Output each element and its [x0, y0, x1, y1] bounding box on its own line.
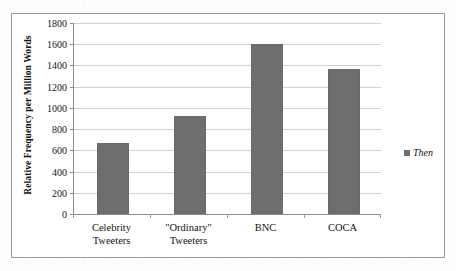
x-tick-mark: [73, 214, 74, 218]
legend-label-then: Then: [413, 147, 433, 158]
legend: Then: [404, 147, 433, 158]
y-tick-label: 1600: [47, 39, 67, 50]
y-tick-label: 800: [52, 124, 67, 135]
y-tick-mark: [70, 193, 74, 194]
bar[interactable]: [328, 69, 360, 214]
chart-frame: Relative Frequency per Million Words 180…: [11, 13, 445, 258]
gridline: [74, 44, 381, 45]
x-tick-mark: [380, 214, 381, 218]
x-tick-label-line: Tweeters: [143, 235, 235, 248]
y-tick-label: 200: [52, 187, 67, 198]
y-tick-label: 1200: [47, 81, 67, 92]
y-tick-mark: [70, 108, 74, 109]
y-tick-mark: [70, 65, 74, 66]
y-tick-mark: [70, 129, 74, 130]
category-axis: CelebrityTweeters"Ordinary"TweetersBNCCO…: [73, 214, 381, 260]
y-tick-label: 0: [62, 209, 67, 220]
plot-area: 180016001400120010008006004002000: [73, 23, 381, 214]
y-tick-label: 400: [52, 166, 67, 177]
y-tick-mark: [70, 23, 74, 24]
bar[interactable]: [174, 116, 206, 214]
y-tick-label: 1800: [47, 18, 67, 29]
y-tick-label: 1000: [47, 102, 67, 113]
y-tick-mark: [70, 172, 74, 173]
plot-inner: 180016001400120010008006004002000: [73, 23, 381, 214]
gridline: [74, 65, 381, 66]
y-tick-label: 600: [52, 145, 67, 156]
x-tick-mark: [304, 214, 305, 218]
gridline: [74, 23, 381, 24]
scanned-page: Relative Frequency per Million Words 180…: [0, 0, 456, 271]
x-tick-mark: [150, 214, 151, 218]
y-tick-mark: [70, 150, 74, 151]
y-tick-mark: [70, 87, 74, 88]
bar[interactable]: [251, 44, 283, 214]
legend-swatch-then: [404, 150, 410, 156]
x-tick-mark: [227, 214, 228, 218]
y-tick-mark: [70, 44, 74, 45]
bar[interactable]: [97, 143, 129, 214]
x-tick-label: COCA: [297, 222, 389, 235]
x-tick-label-line: COCA: [297, 222, 389, 235]
y-tick-label: 1400: [47, 60, 67, 71]
y-axis-title: Relative Frequency per Million Words: [23, 25, 33, 205]
